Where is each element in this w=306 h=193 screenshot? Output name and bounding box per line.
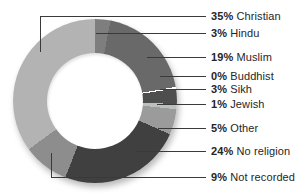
legend-name: Muslim bbox=[233, 51, 272, 63]
legend-pct: 3% bbox=[211, 83, 227, 95]
legend-label-muslim: 19% Muslim bbox=[211, 51, 272, 63]
leader-line-elbow bbox=[51, 153, 52, 177]
legend-label-jewish: 1% Jewish bbox=[211, 98, 265, 110]
legend-label-hindu: 3% Hindu bbox=[211, 27, 260, 39]
legend-name: Christian bbox=[233, 10, 280, 22]
legend-pct: 35% bbox=[211, 10, 233, 22]
leader-line bbox=[40, 16, 206, 17]
legend-label-not-recorded: 9% Not recorded bbox=[211, 171, 295, 183]
leader-line bbox=[160, 76, 206, 77]
leader-line bbox=[147, 57, 206, 58]
donut-hole bbox=[47, 53, 143, 149]
legend-pct: 9% bbox=[211, 171, 227, 183]
legend-label-other: 5% Other bbox=[211, 122, 258, 134]
legend-pct: 0% bbox=[211, 70, 227, 82]
legend-name: Not recorded bbox=[227, 171, 295, 183]
legend-name: Other bbox=[227, 122, 258, 134]
legend-name: Jewish bbox=[227, 98, 264, 110]
leader-line-elbow bbox=[40, 16, 41, 52]
legend-pct: 19% bbox=[211, 51, 233, 63]
legend-label-no-religion: 24% No religion bbox=[211, 145, 290, 157]
leader-line bbox=[158, 128, 206, 129]
legend-label-buddhist: 0% Buddhist bbox=[211, 70, 274, 82]
religion-donut-chart: 35% Christian3% Hindu19% Muslim0% Buddhi… bbox=[0, 0, 306, 193]
leader-line bbox=[96, 33, 206, 34]
leader-line bbox=[157, 104, 206, 105]
legend-label-sikh: 3% Sikh bbox=[211, 83, 252, 95]
legend-label-christian: 35% Christian bbox=[211, 10, 281, 22]
legend-pct: 3% bbox=[211, 27, 227, 39]
legend-name: Buddhist bbox=[227, 70, 274, 82]
legend-pct: 1% bbox=[211, 98, 227, 110]
leader-line bbox=[51, 177, 206, 178]
legend-pct: 5% bbox=[211, 122, 227, 134]
leader-line bbox=[135, 151, 206, 152]
legend-name: Sikh bbox=[227, 83, 252, 95]
legend-name: Hindu bbox=[227, 27, 259, 39]
legend-name: No religion bbox=[233, 145, 290, 157]
leader-line bbox=[160, 89, 206, 90]
legend-pct: 24% bbox=[211, 145, 233, 157]
